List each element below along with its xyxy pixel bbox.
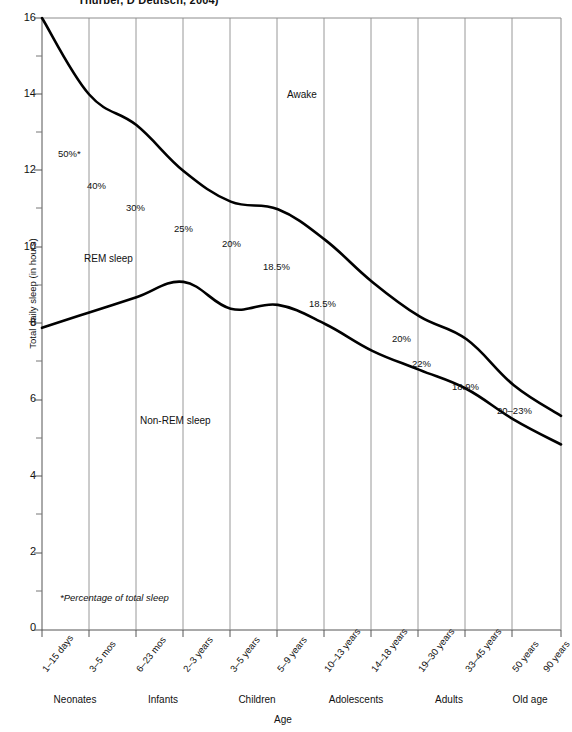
x-group-old-age: Old age: [490, 694, 570, 705]
annotation-pct-3: 25%: [174, 223, 193, 234]
x-group-neonates: Neonates: [30, 694, 120, 705]
region-label-rem-sleep: REM sleep: [84, 253, 133, 264]
x-group-children: Children: [212, 694, 302, 705]
annotation-pct-4: 20%: [222, 238, 241, 249]
annotation-pct-1: 40%: [87, 180, 106, 191]
x-group-adults: Adults: [404, 694, 494, 705]
x-group-infants: Infants: [118, 694, 208, 705]
annotation-pct-7: 20%: [392, 333, 411, 344]
annotation-pct-9: 18.9%: [452, 381, 479, 392]
annotation-pct-2: 30%: [126, 202, 145, 213]
total-sleep-curve: [42, 18, 561, 416]
annotation-pct-10: 20–23%: [497, 405, 532, 416]
annotation-pct-5: 18.5%: [263, 261, 290, 272]
annotation-pct-8: 22%: [412, 358, 431, 369]
region-label-awake: Awake: [287, 89, 317, 100]
y-major-ticks: [34, 18, 42, 630]
region-label-non-rem-sleep: Non-REM sleep: [140, 415, 211, 426]
annotation-pct-6: 18.5%: [309, 298, 336, 309]
x-group-adolescents: Adolescents: [306, 694, 406, 705]
non-rem-sleep-curve: [42, 282, 561, 445]
annotation-pct-0: 50%*: [58, 148, 81, 159]
footnote: *Percentage of total sleep: [60, 592, 169, 603]
x-axis-title: Age: [274, 714, 292, 725]
category-gridlines: [89, 18, 512, 630]
